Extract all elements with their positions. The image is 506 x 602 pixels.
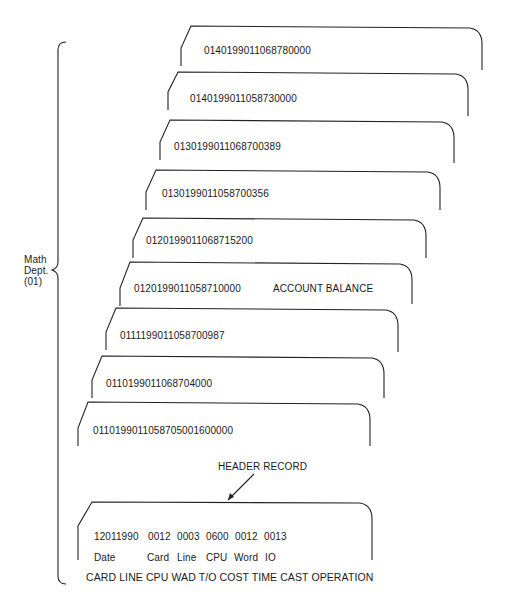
card-code: 0140199011058730000 — [190, 93, 297, 104]
header-field-date: Date — [94, 552, 116, 563]
header-value-date: 12011990 — [94, 531, 139, 542]
header-value-io: 0013 — [264, 531, 287, 542]
header-value-cpu: 0600 — [206, 531, 229, 542]
card-outline-9 — [78, 402, 370, 446]
header-field-word: Word — [234, 552, 258, 563]
header-record-label: HEADER RECORD — [218, 461, 307, 472]
header-field-cpu: CPU — [206, 552, 227, 563]
header-field-line: Line — [177, 552, 196, 563]
group-label: Math Dept. (01) — [24, 254, 48, 287]
card-deck-outlines — [0, 0, 506, 602]
card-code: 0140199011068780000 — [204, 45, 311, 56]
card-code: 0111199011058700987 — [120, 330, 225, 341]
card-code: 0110199011058705001600000 — [93, 425, 233, 436]
header-field-io: IO — [265, 552, 276, 563]
brace — [52, 42, 66, 584]
card-code: 0110199011068704000 — [106, 378, 212, 389]
header-value-word: 0012 — [235, 531, 258, 542]
group-label-line2: Dept. — [24, 265, 48, 276]
card-code: 0130199011068700389 — [174, 141, 281, 152]
card-code: 0120199011058710000 — [134, 283, 241, 294]
card-outline-8 — [92, 356, 384, 398]
header-field-card: Card — [147, 552, 169, 563]
group-label-line3: (01) — [24, 276, 48, 287]
header-value-card: 0012 — [148, 531, 171, 542]
arrow-head-icon — [228, 493, 234, 500]
header-value-line: 0003 — [177, 531, 200, 542]
header-caption: CARD LINE CPU WAD T/O COST TIME CAST OPE… — [86, 571, 373, 583]
group-label-line1: Math — [24, 254, 48, 265]
card-note: ACCOUNT BALANCE — [273, 283, 373, 294]
card-code: 0120199011068715200 — [146, 235, 253, 246]
card-code: 0130199011058700356 — [162, 188, 269, 199]
